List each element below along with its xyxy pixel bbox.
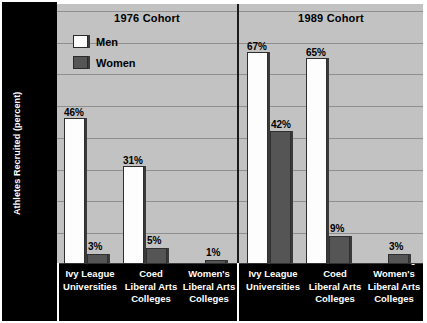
x-label-line: Ivy League bbox=[241, 268, 305, 281]
gridline-0 bbox=[57, 263, 423, 264]
x-label-1989-womens: Women's Liberal Arts Colleges bbox=[364, 268, 424, 306]
bar-1976-womens-women bbox=[205, 260, 226, 264]
x-label-line: Liberal Arts bbox=[122, 281, 180, 294]
plot-area: 1976 Cohort 1989 Cohort Men Women 46% 3%… bbox=[57, 4, 423, 264]
x-label-line: Colleges bbox=[180, 293, 238, 306]
legend-label-women: Women bbox=[96, 57, 136, 69]
bar-1976-ivy-men bbox=[64, 118, 85, 264]
panel-title-1976: 1976 Cohort bbox=[57, 12, 237, 24]
x-label-line: Coed bbox=[305, 268, 365, 281]
bar-label-1976-coed-women: 5% bbox=[147, 235, 161, 246]
legend-label-men: Men bbox=[96, 36, 118, 48]
x-label-line: Coed bbox=[122, 268, 180, 281]
gridline-40 bbox=[57, 138, 423, 139]
bar-label-1989-coed-men: 65% bbox=[306, 47, 326, 58]
bar-1989-ivy-men bbox=[247, 52, 268, 264]
bar-1976-ivy-women bbox=[87, 254, 108, 264]
x-label-line: Universities bbox=[59, 281, 121, 294]
bar-1989-coed-women bbox=[329, 236, 350, 264]
bar-1989-ivy-women bbox=[270, 131, 291, 264]
x-label-1976-coed: Coed Liberal Arts Colleges bbox=[122, 268, 180, 306]
legend-swatch-women bbox=[73, 56, 88, 69]
y-axis-title: Athletes Recruited (percent) bbox=[12, 92, 22, 215]
bar-label-1989-coed-women: 9% bbox=[330, 223, 344, 234]
bar-label-1976-ivy-men: 46% bbox=[64, 107, 84, 118]
x-label-1989-coed: Coed Liberal Arts Colleges bbox=[305, 268, 365, 306]
gridline-30 bbox=[57, 170, 423, 171]
legend-item-men: Men bbox=[73, 35, 136, 48]
legend: Men Women bbox=[73, 35, 136, 77]
x-label-line: Colleges bbox=[305, 293, 365, 306]
bar-1976-coed-women bbox=[146, 248, 167, 264]
bar-label-1989-ivy-women: 42% bbox=[271, 119, 291, 130]
bar-label-1989-womens-women: 3% bbox=[389, 241, 403, 252]
gridline-10 bbox=[57, 233, 423, 234]
bar-label-1976-coed-men: 31% bbox=[123, 155, 143, 166]
x-label-line: Universities bbox=[241, 281, 305, 294]
x-label-line: Liberal Arts bbox=[180, 281, 238, 294]
x-label-1976-womens: Women's Liberal Arts Colleges bbox=[180, 268, 238, 306]
legend-swatch-men bbox=[73, 35, 88, 48]
chart-figure: Athletes Recruited (percent) 80 70 60 50… bbox=[0, 0, 427, 323]
x-label-line: Colleges bbox=[122, 293, 180, 306]
x-label-line: Colleges bbox=[364, 293, 424, 306]
x-label-line: Ivy League bbox=[59, 268, 121, 281]
x-label-1989-ivy: Ivy League Universities bbox=[241, 268, 305, 293]
bar-1976-coed-men bbox=[123, 166, 144, 264]
x-label-line: Liberal Arts bbox=[364, 281, 424, 294]
bar-label-1976-womens-women: 1% bbox=[206, 247, 220, 258]
x-label-line: Women's bbox=[180, 268, 238, 281]
legend-item-women: Women bbox=[73, 56, 136, 69]
gridline-50 bbox=[57, 106, 423, 107]
x-label-line: Women's bbox=[364, 268, 424, 281]
bar-1989-coed-men bbox=[306, 58, 327, 264]
x-label-line: Liberal Arts bbox=[305, 281, 365, 294]
bar-label-1989-ivy-men: 67% bbox=[247, 41, 267, 52]
panel-title-1989: 1989 Cohort bbox=[239, 12, 423, 24]
x-label-1976-ivy: Ivy League Universities bbox=[59, 268, 121, 293]
bar-label-1976-ivy-women: 3% bbox=[88, 241, 102, 252]
cohort-divider bbox=[237, 4, 239, 264]
bar-1989-womens-women bbox=[388, 254, 409, 264]
gridline-20 bbox=[57, 201, 423, 202]
